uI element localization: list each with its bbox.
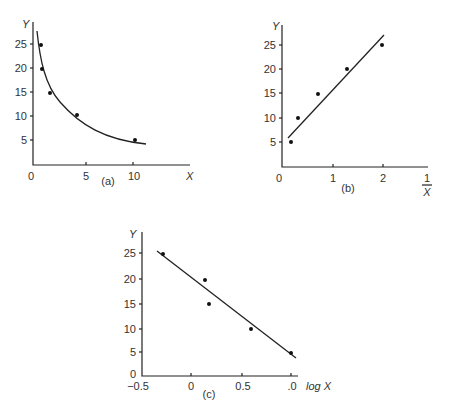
chart-c: 25 20 15 10 5 0 −0.5 0 0.5 .0 Y log X (c… [124,228,332,400]
panel-label: (a) [101,175,114,187]
x-tick-label: 10 [128,170,140,182]
x-tick-label: 1 [330,172,336,184]
x-tick-label: 2 [380,172,386,184]
x-axis-label-numerator: 1 [424,172,430,184]
x-tick-label: −0.5 [127,380,149,392]
chart-a-fit-curve [37,31,146,144]
chart-b-fit-line [288,35,384,138]
chart-a-axes [33,22,190,165]
x-tick-label: .0 [287,380,296,392]
y-tick-label: 5 [130,346,136,358]
chart-c-axes [142,232,298,376]
chart-b: 25 20 15 10 5 0 1 2 Y 1 X (b) [264,20,432,198]
x-axis-label: X [185,170,194,182]
chart-b-points [289,43,384,144]
x-axis-label-denominator: X [422,186,431,198]
y-axis-label: Y [129,228,137,240]
chart-c-y-ticks: 25 20 15 10 5 0 [124,247,142,380]
x-tick-label: 5 [83,170,89,182]
figure: 25 20 15 10 5 0 5 10 Y X (a) [0,0,449,405]
y-tick-label: 10 [264,112,276,124]
chart-b-axes [282,25,428,167]
panel-label: (b) [341,182,354,194]
y-tick-label: 5 [21,134,27,146]
y-tick-label: 10 [15,110,27,122]
chart-c-fit-line [157,251,296,358]
x-tick-label: 0 [276,172,282,184]
y-tick-label: 20 [124,273,136,285]
y-tick-label: 25 [124,247,136,259]
chart-b-y-ticks: 25 20 15 10 5 [264,39,282,148]
chart-a-y-ticks: 25 20 15 10 5 [15,38,33,146]
y-axis-label: Y [272,20,280,32]
y-tick-label: 15 [15,86,27,98]
y-tick-label: 15 [264,87,276,99]
x-tick-label: 0 [188,380,194,392]
y-tick-label: 20 [15,62,27,74]
chart-c-points [161,252,293,355]
x-tick-label: 0 [28,170,34,182]
y-axis-label: Y [22,18,30,30]
y-tick-label: 15 [124,298,136,310]
y-tick-label: 0 [130,368,136,380]
x-axis-label: log X [306,380,332,392]
chart-a: 25 20 15 10 5 0 5 10 Y X (a) [15,18,194,187]
y-tick-label: 10 [124,323,136,335]
y-tick-label: 25 [264,39,276,51]
x-axis-label-fraction: 1 X [422,172,432,198]
y-tick-label: 25 [15,38,27,50]
y-tick-label: 5 [270,136,276,148]
y-tick-label: 20 [264,63,276,75]
x-tick-label: 0.5 [235,380,250,392]
panel-label: (c) [203,388,216,400]
